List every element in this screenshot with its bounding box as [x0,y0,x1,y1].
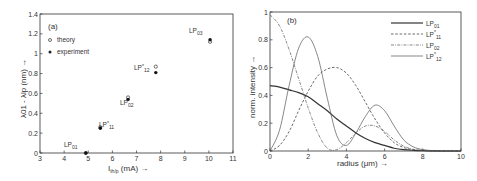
y-tick-label: 1 [34,50,38,57]
y-tick-label: 0.4 [28,110,38,117]
x-tick-label: 8 [421,153,425,160]
y-tick-label: 0.4 [258,92,268,99]
x-axis-label-a: Ith/p (mA) → [108,164,148,174]
y-tick-label: 0 [34,150,38,157]
x-tick-label: 10 [457,153,465,160]
filled-circle-marker-icon [49,51,52,54]
plot-frame-a [40,14,233,153]
open-circle-marker-icon [49,39,52,42]
y-tick-label: 1.2 [28,30,38,37]
panel-a-wavelength-shift-chart: 34567891011 00.20.40.60.811.21.4 (a) the… [19,11,237,175]
x-tick-label: 9 [183,155,187,162]
experiment-point [154,71,157,74]
x-axis-ticks-a: 34567891011 [38,151,237,163]
y-tick-label: 1.4 [28,11,38,18]
y-tick-label: 0.8 [28,70,38,77]
mode-annotations-a: LP01LP*11LP02LP*12LP03 [64,27,203,150]
x-tick-label: 11 [229,155,236,162]
y-axis-label-a: λ01 - λlp (nm) → [19,59,28,118]
x-tick-label: 3 [38,155,42,162]
legend-theory-label: theory [57,36,76,44]
theory-point [154,65,157,68]
x-tick-label: 10 [205,155,213,162]
y-tick-label: 0.6 [28,90,38,97]
y-tick-label: 0.8 [258,36,268,43]
y-tick-label: 0.2 [28,130,38,137]
legend-entry-label: LP02 [426,42,440,51]
x-tick-label: 0 [268,153,272,160]
x-tick-label: 2 [306,153,310,160]
y-tick-label: 1 [264,9,268,16]
y-tick-label: 0 [264,148,268,155]
mode-label: LP01 [64,141,78,150]
figure: 34567891011 00.20.40.60.811.21.4 (a) the… [0,0,477,181]
mode-label: LP*12 [134,63,150,74]
y-axis-label-b: norm. intensity → [248,56,257,118]
legend-entry-label: LP*12 [426,51,442,62]
legend-a: theory experiment [49,36,90,56]
panel-b-intensity-chart: 0246810 00.20.40.60.81 (b) LP01LP*11LP02… [248,9,465,169]
y-tick-label: 0.6 [258,64,268,71]
mode-label: LP02 [120,99,134,108]
legend-entry-label: LP01 [426,20,440,29]
x-tick-label: 7 [135,155,139,162]
x-tick-label: 6 [110,155,114,162]
mode-label: LP03 [189,27,203,36]
legend-b: LP01LP*11LP02LP*12 [391,20,442,62]
curve-lp01 [270,86,461,151]
x-tick-label: 5 [86,155,90,162]
panel-label-a: (a) [48,22,58,31]
x-tick-label: 8 [159,155,163,162]
x-tick-label: 4 [62,155,66,162]
legend-entry-label: LP*11 [426,29,441,40]
y-tick-label: 0.2 [258,120,268,127]
scatter-points-a [84,38,212,155]
x-axis-label-b: radius (μm) → [337,159,388,168]
legend-experiment-label: experiment [57,48,89,56]
experiment-point [84,151,87,154]
experiment-point [208,38,211,41]
panel-label-b: (b) [287,16,297,25]
